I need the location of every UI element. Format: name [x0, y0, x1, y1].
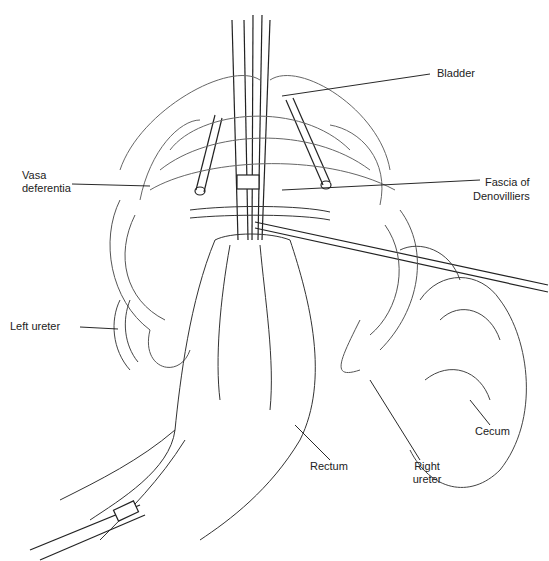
label-vasa-line2: deferentia — [22, 182, 71, 195]
leader-line-vasa — [72, 184, 150, 186]
leader-line-right-ureter — [370, 380, 420, 460]
rectum-tissue — [60, 234, 315, 540]
label-vasa-line1: Vasa — [22, 169, 46, 182]
label-left-ureter: Left ureter — [10, 320, 60, 333]
leader-line-bladder — [282, 74, 430, 96]
label-bladder: Bladder — [437, 67, 475, 80]
label-fascia-line2: Denovilliers — [473, 190, 530, 203]
leader-line-left-ureter — [80, 327, 118, 329]
leader-line-cecum — [470, 400, 490, 425]
label-cecum: Cecum — [475, 425, 510, 438]
left-ureter-tissue — [114, 300, 138, 370]
fascia-tissue — [190, 206, 330, 220]
clamp-instrument — [30, 501, 145, 560]
leader-line-fascia — [282, 180, 480, 190]
label-fascia-line1: Fascia of — [485, 176, 530, 189]
leader-line-rectum — [295, 425, 330, 460]
probe-instrument — [255, 222, 548, 292]
anatomical-illustration — [0, 0, 549, 561]
label-right-ureter-line2: ureter — [407, 473, 447, 486]
label-rectum: Rectum — [310, 460, 348, 473]
pelvic-wall — [110, 200, 417, 373]
cecum-tissue — [400, 246, 526, 487]
label-right-ureter-line1: Right — [407, 460, 447, 473]
